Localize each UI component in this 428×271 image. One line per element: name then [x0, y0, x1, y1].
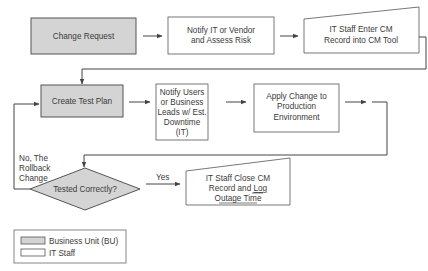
change-management-flowchart: Change Request Notify IT or Vendor and A… — [0, 0, 428, 271]
close-cm-line2: Record and Log — [209, 184, 268, 193]
label-yes: Yes — [156, 173, 169, 182]
node-close-cm: IT Staff Close CM Record and Log Outage … — [186, 158, 290, 205]
svg-text:Notify IT or Vendor: Notify IT or Vendor — [187, 26, 255, 35]
svg-text:Record into CM Tool: Record into CM Tool — [324, 36, 398, 45]
legend-swatch-business-unit — [21, 237, 45, 244]
svg-text:(IT): (IT) — [176, 128, 189, 137]
svg-text:IT Staff Close CM: IT Staff Close CM — [206, 174, 270, 183]
node-notify-users: Notify Users or Business Leads w/ Est. D… — [156, 84, 208, 140]
svg-text:Notify Users: Notify Users — [160, 88, 205, 97]
node-create-test-plan: Create Test Plan — [41, 85, 123, 117]
svg-text:Change Request: Change Request — [53, 32, 115, 41]
legend-swatch-it-staff — [21, 249, 45, 256]
svg-text:IT Staff: IT Staff — [49, 249, 76, 258]
svg-text:Outage Time: Outage Time — [215, 194, 262, 203]
svg-text:Change: Change — [19, 174, 48, 183]
svg-text:Apply Change to: Apply Change to — [266, 92, 327, 101]
node-notify-it: Notify IT or Vendor and Assess Risk — [168, 17, 274, 54]
svg-text:Environment: Environment — [274, 113, 321, 122]
svg-text:Leads w/ Est.: Leads w/ Est. — [157, 108, 206, 117]
svg-text:IT Staff Enter CM: IT Staff Enter CM — [330, 25, 393, 34]
svg-text:and Assess Risk: and Assess Risk — [191, 36, 252, 45]
svg-text:Tested Correctly?: Tested Correctly? — [53, 185, 117, 194]
legend: Business Unit (BU) IT Staff — [14, 230, 126, 263]
svg-text:Production: Production — [277, 102, 317, 111]
label-no-rollback: No, The Rollback Change — [19, 154, 51, 183]
svg-text:Create Test Plan: Create Test Plan — [52, 97, 113, 106]
svg-text:or Business: or Business — [161, 98, 204, 107]
node-enter-cm: IT Staff Enter CM Record into CM Tool — [304, 7, 419, 53]
svg-text:Rollback: Rollback — [19, 164, 51, 173]
svg-text:No, The: No, The — [19, 154, 48, 163]
node-change-request: Change Request — [31, 18, 136, 54]
node-apply-change: Apply Change to Production Environment — [254, 84, 339, 132]
svg-text:Downtime: Downtime — [164, 118, 201, 127]
connector-apply-to-decision — [84, 102, 387, 167]
svg-text:Business Unit (BU): Business Unit (BU) — [49, 237, 118, 246]
